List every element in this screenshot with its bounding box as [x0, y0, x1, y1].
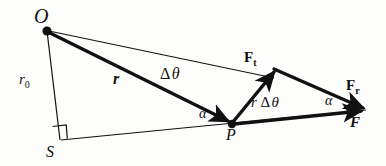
- vector-force-resultant: [234, 111, 361, 124]
- label-force-tangential-subscript: t: [253, 57, 256, 68]
- label-delta-theta-delta: Δ: [160, 65, 170, 82]
- label-r-delta-theta: r Δ θ: [251, 95, 279, 110]
- label-force-radial-base: F: [346, 77, 355, 93]
- vector-force-diagram: O S P r0 r Δ θ r Δ θ Ft Fr F α α: [0, 0, 386, 166]
- segment-r0-line: [47, 31, 60, 140]
- label-r-zero-subscript: 0: [25, 79, 30, 90]
- label-force-radial-subscript: r: [355, 85, 359, 96]
- label-point-o: O: [34, 6, 48, 26]
- label-alpha-at-force-tip: α: [325, 94, 332, 108]
- label-force-resultant: F: [350, 115, 360, 130]
- diagram-canvas: [0, 0, 386, 166]
- label-delta-theta-theta: θ: [172, 65, 180, 82]
- label-r-zero-sub-text: 0: [25, 79, 30, 90]
- label-r-delta-theta-theta: θ: [272, 94, 279, 110]
- label-delta-theta: Δ θ: [160, 66, 180, 82]
- label-vector-r: r: [113, 71, 119, 87]
- label-r-delta-theta-delta: Δ: [261, 94, 271, 110]
- label-r-zero: r0: [19, 72, 30, 90]
- label-r-delta-theta-r: r: [251, 94, 257, 110]
- point-o-dot: [42, 26, 51, 35]
- label-point-p: P: [226, 127, 236, 143]
- label-force-radial: Fr: [346, 78, 360, 96]
- label-alpha-at-p: α: [199, 107, 206, 121]
- label-point-s: S: [46, 144, 54, 160]
- label-force-tangential: Ft: [244, 50, 257, 68]
- label-force-tangential-base: F: [244, 49, 253, 65]
